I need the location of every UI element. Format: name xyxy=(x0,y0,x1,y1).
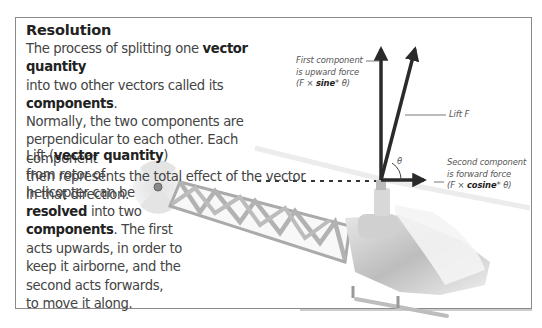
label-text: Second component xyxy=(447,157,526,167)
body-text: helicopter can be xyxy=(26,185,135,200)
helicopter-body xyxy=(345,180,490,316)
intro-text: into two other vectors called its xyxy=(26,78,223,93)
body-text: from rotor of xyxy=(26,167,105,182)
term-components: components xyxy=(26,222,114,237)
intro-text: . xyxy=(114,96,118,111)
lift-paragraph: Lift (vector quantity) from rotor of hel… xyxy=(26,147,186,314)
body-text: into two xyxy=(87,204,142,219)
term-vector-quantity: vector quantity xyxy=(54,148,163,163)
section-title: Resolution xyxy=(26,22,111,38)
label-text: (F × xyxy=(447,180,467,190)
label-text: * θ) xyxy=(497,180,512,190)
body-text: to move it along. xyxy=(26,296,132,311)
first-component-label: First component is upward force (F × sin… xyxy=(296,55,363,90)
body-text: second acts forwards, xyxy=(26,278,163,293)
body-text: acts upwards, in order to xyxy=(26,241,182,256)
theta-label: θ xyxy=(397,156,402,168)
label-text: (F × xyxy=(296,78,316,88)
body-text: Lift ( xyxy=(26,148,54,163)
term-resolved: resolved xyxy=(26,204,87,219)
intro-text: The process of splitting one xyxy=(26,41,203,56)
term-components: components xyxy=(26,96,114,111)
label-text: First component xyxy=(296,55,363,65)
body-text: . The first xyxy=(114,222,173,237)
lift-label: Lift F xyxy=(449,109,469,121)
sine-term: sine xyxy=(316,78,335,88)
cosine-term: cosine xyxy=(467,180,497,190)
second-component-label: Second component is forward force (F × c… xyxy=(447,157,526,192)
label-text: * θ) xyxy=(335,78,350,88)
body-text: ) xyxy=(163,148,168,163)
label-text: is forward force xyxy=(447,169,511,179)
intro-text: Normally, the two components are xyxy=(26,114,243,129)
body-text: keep it airborne, and the xyxy=(26,259,181,274)
label-text: is upward force xyxy=(296,67,359,77)
